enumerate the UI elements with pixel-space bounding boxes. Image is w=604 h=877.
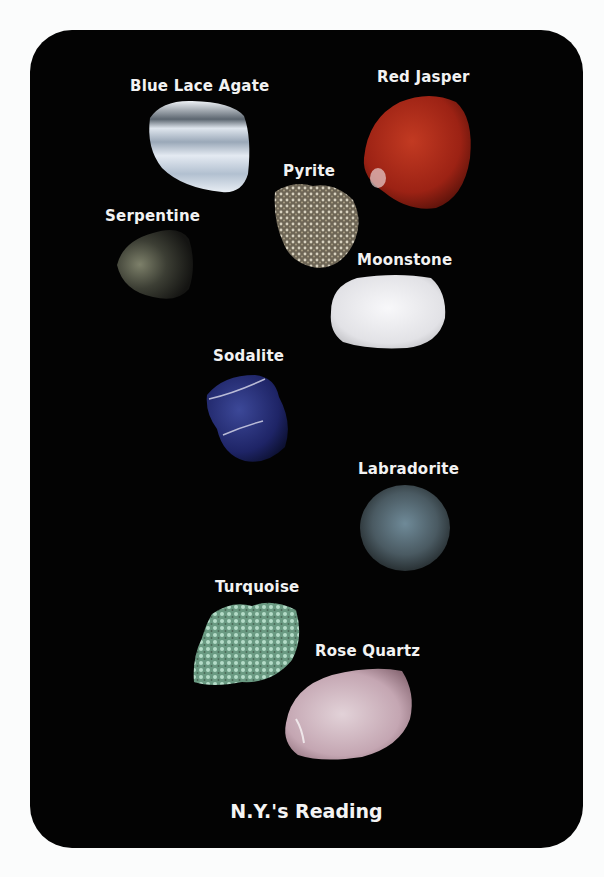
stone-pyrite bbox=[273, 180, 363, 272]
label-sodalite: Sodalite bbox=[213, 347, 284, 365]
stone-blue-lace-agate bbox=[142, 98, 254, 198]
reading-card: Blue Lace Agate Red Jasper Pyrite bbox=[30, 30, 583, 848]
stone-rose-quartz bbox=[282, 663, 418, 763]
label-rose-quartz: Rose Quartz bbox=[315, 642, 420, 660]
label-labradorite: Labradorite bbox=[358, 460, 459, 478]
stone-red-jasper bbox=[360, 88, 475, 213]
label-pyrite: Pyrite bbox=[283, 162, 335, 180]
stone-serpentine bbox=[113, 225, 197, 303]
label-blue-lace-agate: Blue Lace Agate bbox=[130, 77, 269, 95]
label-moonstone: Moonstone bbox=[357, 251, 452, 269]
stone-labradorite bbox=[358, 483, 452, 573]
stone-moonstone bbox=[327, 272, 449, 350]
stone-sodalite bbox=[205, 373, 293, 465]
label-red-jasper: Red Jasper bbox=[377, 68, 470, 86]
label-turquoise: Turquoise bbox=[215, 578, 299, 596]
label-serpentine: Serpentine bbox=[105, 207, 200, 225]
card-title: N.Y.'s Reading bbox=[30, 800, 583, 822]
